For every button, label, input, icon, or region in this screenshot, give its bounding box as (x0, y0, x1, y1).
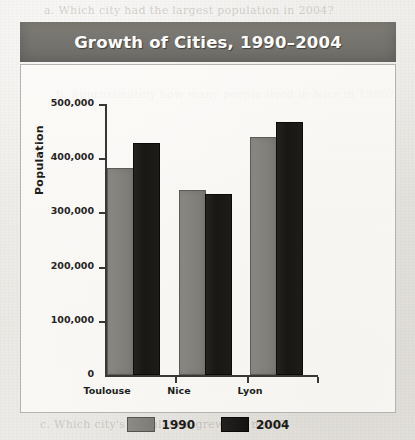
y-tick-label-300000: 300,000 (51, 205, 94, 216)
legend-label-1990: 1990 (162, 418, 195, 432)
x-tick-separator-1 (175, 377, 177, 383)
bar-lyon-2004[interactable] (276, 122, 303, 375)
y-axis-label: Population (33, 125, 46, 195)
legend-item-1990[interactable]: 1990 (127, 417, 195, 432)
bar-chart-figure: Growth of Cities, 1990–2004 Population 5… (20, 22, 396, 413)
legend-swatch-1990-icon (127, 417, 155, 432)
chart-title: Growth of Cities, 1990–2004 (74, 33, 342, 52)
bar-toulouse-2004[interactable] (133, 143, 160, 375)
chart-legend: 1990 2004 (21, 417, 395, 432)
legend-swatch-2004-icon (221, 417, 249, 432)
y-tick-label-0: 0 (87, 368, 94, 379)
x-axis-line (105, 375, 318, 377)
y-tick-200000: 200,000 (99, 267, 107, 269)
bars-container (107, 104, 318, 375)
y-tick-400000: 400,000 (99, 158, 107, 160)
y-tick-label-100000: 100,000 (51, 314, 94, 325)
y-tick-100000: 100,000 (99, 321, 107, 323)
bar-nice-1990[interactable] (179, 190, 206, 375)
y-tick-label-500000: 500,000 (51, 97, 94, 108)
y-tick-label-400000: 400,000 (51, 151, 94, 162)
y-tick-300000: 300,000 (99, 212, 107, 214)
y-tick-500000: 500,000 (99, 104, 107, 106)
x-category-label-toulouse: Toulouse (67, 385, 147, 396)
bar-lyon-1990[interactable] (250, 137, 277, 375)
x-tick-separator-3 (317, 377, 319, 383)
legend-label-2004: 2004 (256, 418, 289, 432)
bar-nice-2004[interactable] (205, 194, 232, 375)
bar-toulouse-1990[interactable] (107, 168, 134, 375)
plot-frame: Population 500,000 400,000 300,000 200,0… (20, 64, 396, 413)
chart-title-banner: Growth of Cities, 1990–2004 (20, 22, 396, 62)
x-tick-separator-2 (247, 377, 249, 383)
x-category-label-lyon: Lyon (210, 385, 290, 396)
bleedthrough-text-1: a. Which city had the largest population… (44, 4, 334, 17)
x-category-label-nice: Nice (139, 385, 219, 396)
y-tick-label-200000: 200,000 (51, 260, 94, 271)
legend-item-2004[interactable]: 2004 (221, 417, 289, 432)
